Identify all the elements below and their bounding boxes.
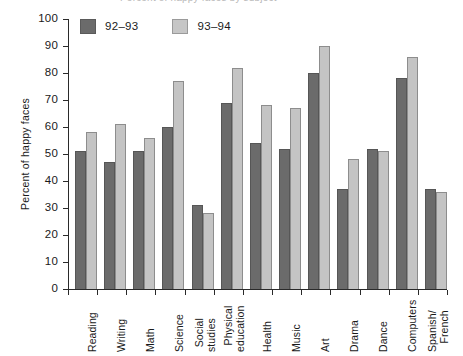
y-tick-label-100: 100 [24,13,58,25]
y-tick-label-wrap-10: 10 [24,256,58,268]
y-tick-20 [63,235,69,236]
y-tick-40 [63,181,69,182]
bar-92-93 [250,143,261,289]
bar-92-93 [133,151,144,289]
x-tick-7 [272,290,273,295]
bar-group [334,19,363,289]
bar-92-93 [396,78,407,289]
y-tick-label-wrap-40: 40 [24,175,58,187]
bar-group [218,19,247,289]
y-tick-label-wrap-70: 70 [24,94,58,106]
bar-92-93 [104,162,115,289]
y-tick-60 [63,127,69,128]
x-axis-labels: ReadingWritingMathScienceSocial studiesP… [68,296,447,356]
bar-group [305,19,334,289]
y-tick-label-80: 80 [24,67,58,79]
x-tick-0 [68,290,69,295]
bar-93-94 [173,81,184,289]
y-tick-label-wrap-20: 20 [24,229,58,241]
bar-93-94 [261,105,272,289]
x-label-spanish--french: Spanish/ French [427,310,450,352]
y-tick-label-wrap-90: 90 [24,40,58,52]
x-label-social-studies: Social studies [194,318,217,352]
bar-group [364,19,393,289]
chart-title: Percent of happy faces by subject [120,0,277,3]
y-tick-label-wrap-30: 30 [24,202,58,214]
bar-93-94 [436,192,447,289]
bar-93-94 [348,159,359,289]
y-tick-50 [63,154,69,155]
y-tick-label-wrap-60: 60 [24,121,58,133]
x-tick-2 [126,290,127,295]
bar-92-93 [192,205,203,289]
bar-93-94 [203,213,214,289]
bar-group [189,19,218,289]
bar-92-93 [425,189,436,289]
x-tick-13 [447,290,448,295]
x-tick-4 [185,290,186,295]
y-tick-label-40: 40 [24,175,58,187]
bar-group [159,19,188,289]
bar-93-94 [144,138,155,289]
x-label-computers: Computers [407,300,419,352]
bar-group [247,19,276,289]
x-tick-3 [155,290,156,295]
y-tick-label-60: 60 [24,121,58,133]
bar-92-93 [337,189,348,289]
y-tick-label-90: 90 [24,40,58,52]
bar-group [72,19,101,289]
x-label-dance: Dance [378,321,390,352]
bar-group [101,19,130,289]
y-tick-label-70: 70 [24,94,58,106]
x-tick-1 [97,290,98,295]
y-tick-label-50: 50 [24,148,58,160]
bar-92-93 [75,151,86,289]
bar-93-94 [232,68,243,289]
x-label-music: Music [291,324,303,352]
bar-93-94 [319,46,330,289]
bar-92-93 [367,149,378,289]
y-tick-label-10: 10 [24,256,58,268]
bar-93-94 [86,132,97,289]
x-label-health: Health [262,321,274,352]
y-tick-30 [63,208,69,209]
bar-92-93 [308,73,319,289]
bar-group [393,19,422,289]
x-label-art: Art [320,338,332,352]
y-tick-label-wrap-0: 0 [24,283,58,295]
bar-93-94 [407,57,418,289]
y-tick-label-30: 30 [24,202,58,214]
bar-chart: Percent of happy faces by subject 92–93 … [0,0,463,356]
bar-group [422,19,451,289]
x-label-drama: Drama [349,320,361,352]
y-tick-label-wrap-80: 80 [24,67,58,79]
x-tick-5 [214,290,215,295]
x-tick-9 [330,290,331,295]
x-label-science: Science [174,314,186,352]
y-tick-70 [63,100,69,101]
y-tick-100 [63,19,69,20]
bar-93-94 [115,124,126,289]
x-tick-8 [301,290,302,295]
bar-92-93 [279,149,290,289]
x-tick-10 [360,290,361,295]
bar-93-94 [378,151,389,289]
bar-group [130,19,159,289]
y-tick-label-0: 0 [24,283,58,295]
bar-92-93 [162,127,173,289]
bar-group [276,19,305,289]
bar-93-94 [290,108,301,289]
x-tick-6 [243,290,244,295]
y-tick-label-wrap-100: 100 [24,13,58,25]
y-tick-label-20: 20 [24,229,58,241]
x-tick-12 [418,290,419,295]
y-tick-80 [63,73,69,74]
bar-92-93 [221,103,232,289]
x-label-math: Math [145,328,157,352]
plot-area: 1009080706050403020100 [68,19,447,289]
x-label-writing: Writing [116,319,128,352]
y-tick-90 [63,46,69,47]
cropped-chart-title: Percent of happy faces by subject [120,0,380,7]
x-axis-line [68,289,447,290]
x-label-physical-education: Physical education [223,306,246,352]
